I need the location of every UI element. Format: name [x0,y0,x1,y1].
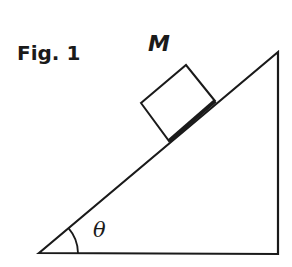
incline-triangle [39,52,278,254]
inclined-plane-diagram: Fig. 1 M θ [0,0,292,267]
angle-arc-icon [69,228,79,253]
mass-label: M [148,31,170,56]
figure-title: Fig. 1 [17,41,80,65]
block-mass [141,65,215,141]
angle-label: θ [93,218,106,242]
